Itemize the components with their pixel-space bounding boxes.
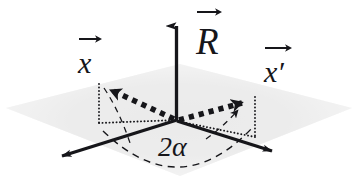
label-x-prime-vector: x′ — [264, 57, 284, 87]
label-x-vector: x — [78, 48, 91, 78]
label-R-text: R — [196, 21, 219, 62]
label-R-vector: R — [196, 23, 219, 60]
label-angle-2alpha: 2α — [158, 133, 187, 161]
label-x-prime-text: x — [264, 55, 277, 88]
label-x-text: x — [78, 46, 91, 79]
prime-mark: ′ — [277, 55, 284, 88]
